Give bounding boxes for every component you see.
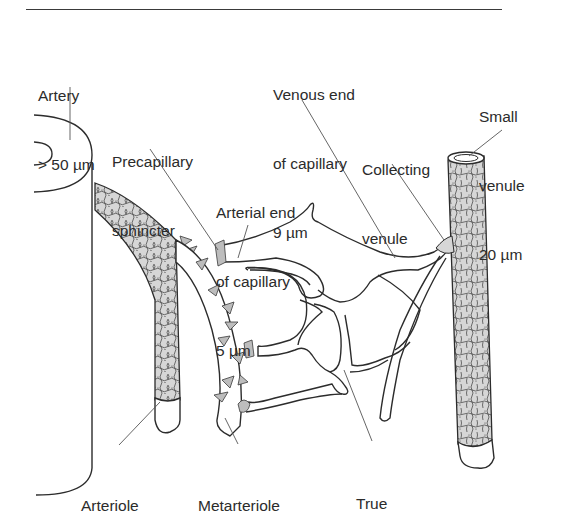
label-metarteriole: Metarteriole 10–15 µm (198, 448, 280, 524)
label-precapillary-sphincter: Precapillary sphincter (112, 104, 193, 265)
label-small-venule-line1: Small (479, 105, 525, 128)
label-collecting-venule-line2: venule (362, 227, 430, 250)
label-venous-end-line1: Venous end (273, 83, 355, 106)
label-precapillary-line1: Precapillary (112, 150, 193, 173)
label-precapillary-line2: sphincter (112, 219, 193, 242)
label-arterial-end-size: 5 µm (216, 339, 295, 362)
label-arteriole-name: Arteriole (81, 494, 150, 517)
label-arteriole: Arteriole 20–50 µm (81, 448, 150, 524)
label-arterial-end-line2: of capillary (216, 270, 295, 293)
label-small-venule: Small venule 20 µm (479, 59, 525, 289)
label-venous-end-size: 9 µm (273, 221, 355, 244)
label-artery: Artery > 50 µm (38, 38, 95, 199)
label-collecting-venule: Collecting venule (362, 112, 430, 273)
label-true-capillary: True capillary (356, 446, 413, 524)
label-metarteriole-name: Metarteriole (198, 494, 280, 517)
label-artery-size: > 50 µm (38, 153, 95, 176)
label-small-venule-size: 20 µm (479, 243, 525, 266)
label-artery-name: Artery (38, 84, 95, 107)
label-venous-end-line2: of capillary (273, 152, 355, 175)
label-collecting-venule-line1: Collecting (362, 158, 430, 181)
label-venous-end: Venous end of capillary 9 µm (273, 37, 355, 267)
label-small-venule-line2: venule (479, 174, 525, 197)
label-true-capillary-line1: True (356, 492, 413, 515)
